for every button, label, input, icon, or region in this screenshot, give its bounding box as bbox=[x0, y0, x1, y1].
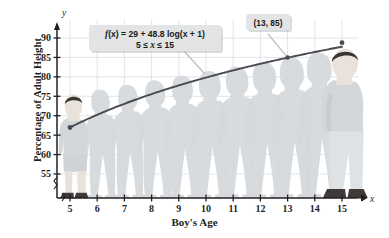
x-tick-label: 5 bbox=[68, 203, 73, 214]
formula-line-1: f(x) = 29 + 48.8 log(x + 1) bbox=[105, 29, 205, 39]
curve-endpoint-right bbox=[340, 40, 345, 45]
x-tick-label: 10 bbox=[201, 203, 211, 214]
point-leader-line bbox=[268, 34, 288, 57]
figure-shirt bbox=[59, 118, 88, 156]
x-tick-label: 12 bbox=[255, 203, 265, 214]
point-label-text: (13, 85) bbox=[254, 18, 283, 28]
data-point-marker bbox=[285, 55, 289, 59]
x-axis-variable: x bbox=[369, 194, 375, 204]
figure-group bbox=[59, 49, 368, 198]
y-tick-label: 80 bbox=[41, 71, 51, 82]
x-tick-label: 13 bbox=[283, 203, 293, 214]
y-axis-arrow bbox=[54, 22, 60, 30]
y-tick-label: 90 bbox=[41, 32, 51, 43]
x-tick-label: 8 bbox=[149, 203, 154, 214]
y-tick-label: 75 bbox=[41, 91, 51, 102]
figure-root: Percentage of Adult Height 5560657075808… bbox=[0, 0, 389, 238]
formula-line-2: 5 ≤ x ≤ 15 bbox=[136, 40, 174, 50]
x-tick-label: 15 bbox=[337, 203, 347, 214]
y-tick-label: 85 bbox=[41, 52, 51, 63]
curve-endpoint-left bbox=[68, 125, 73, 130]
x-tick-label: 9 bbox=[176, 203, 181, 214]
y-tick-label: 70 bbox=[41, 110, 51, 121]
detailed-figure-age-5 bbox=[59, 95, 89, 198]
y-axis-variable: y bbox=[61, 8, 67, 18]
chart-canvas: 556065707580859056789101112131415xyf(x) … bbox=[0, 0, 389, 238]
figure-pants bbox=[328, 131, 363, 189]
y-tick-label: 65 bbox=[41, 130, 51, 141]
x-axis-label: Boy's Age bbox=[0, 216, 389, 228]
formula-leader-line bbox=[183, 50, 205, 74]
y-tick-label: 55 bbox=[41, 168, 51, 179]
x-tick-label: 11 bbox=[228, 203, 237, 214]
x-tick-label: 6 bbox=[95, 203, 100, 214]
figure-shorts bbox=[63, 154, 87, 172]
x-tick-label: 14 bbox=[310, 203, 320, 214]
x-tick-label: 7 bbox=[122, 203, 127, 214]
y-tick-label: 60 bbox=[41, 149, 51, 160]
